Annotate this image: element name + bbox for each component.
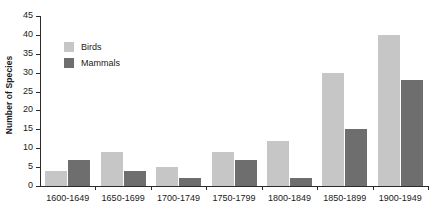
y-axis-tick: 5 [0,167,40,168]
x-axis-tick-label: 1750-1799 [206,193,261,203]
y-axis-tick-label: 5 [28,161,33,172]
y-axis-tick-label: 30 [23,67,33,78]
bar-birds-1650-1699 [101,152,123,186]
y-axis-title-label: Number of Species [4,56,14,135]
y-axis-tick: 15 [0,129,40,130]
x-axis-line [40,186,428,187]
bar-mammals-1850-1899 [345,129,367,186]
y-axis-tick: 20 [0,110,40,111]
y-axis-tick-label: 0 [28,180,33,191]
legend-item-birds: Birds [64,40,120,53]
bar-mammals-1650-1699 [124,171,146,186]
x-axis-tick-label: 1600-1649 [40,193,95,203]
x-axis-tick-label: 1700-1749 [151,193,206,203]
bar-birds-1900-1949 [378,35,400,186]
bar-chart: Number of Species 051015202530354045 160… [0,0,435,217]
y-axis-tick: 35 [0,54,40,55]
y-axis-tick-label: 25 [23,86,33,97]
x-axis-tick-mark [151,186,152,190]
legend-swatch-birds-icon [64,42,74,52]
x-axis-tick-mark [317,186,318,190]
y-axis-tick: 10 [0,148,40,149]
x-axis-tick-mark [262,186,263,190]
y-axis-title: Number of Species [0,0,18,190]
y-axis-tick-label: 20 [23,104,33,115]
y-axis-tick: 40 [0,35,40,36]
y-axis-tick: 0 [0,186,40,187]
x-axis-tick-label: 1650-1699 [95,193,150,203]
legend-item-mammals: Mammals [64,56,120,69]
bar-birds-1750-1799 [212,152,234,186]
y-axis-tick-label: 40 [23,29,33,40]
y-axis-tick: 30 [0,73,40,74]
bar-birds-1800-1849 [267,141,289,186]
y-axis-tick-label: 45 [23,10,33,21]
y-axis-tick-label: 15 [23,123,33,134]
x-axis-tick-mark [373,186,374,190]
legend-label-mammals: Mammals [81,58,120,68]
legend-swatch-mammals-icon [64,58,74,68]
bar-mammals-1700-1749 [179,178,201,186]
bar-mammals-1600-1649 [68,160,90,186]
x-axis-tick-mark [95,186,96,190]
y-axis-tick: 25 [0,92,40,93]
bar-birds-1600-1649 [45,171,67,186]
y-axis-tick-label: 35 [23,48,33,59]
chart-legend: Birds Mammals [64,40,120,72]
bar-birds-1700-1749 [156,167,178,186]
legend-label-birds: Birds [81,42,102,52]
x-axis-tick-label: 1800-1849 [262,193,317,203]
x-axis-tick-mark [206,186,207,190]
bar-mammals-1800-1849 [290,178,312,186]
y-axis-tick-label: 10 [23,142,33,153]
bar-mammals-1750-1799 [235,160,257,186]
x-axis-tick-label: 1900-1949 [373,193,428,203]
bar-birds-1850-1899 [322,73,344,186]
y-axis-tick: 45 [0,16,40,17]
x-axis-tick-label: 1850-1899 [317,193,372,203]
y-axis-tick-mark [36,186,40,187]
x-axis-tick-mark [428,186,429,190]
bar-mammals-1900-1949 [401,80,423,186]
